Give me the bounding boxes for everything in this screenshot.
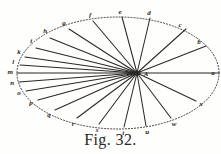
center-point-marker xyxy=(134,71,141,75)
radius-line-c xyxy=(137,29,186,73)
perimeter-label-q: q xyxy=(47,112,50,119)
perimeter-label-i: i xyxy=(30,38,32,45)
perimeter-label-c: c xyxy=(179,22,182,29)
perimeter-label-m: m xyxy=(7,69,12,76)
center-point-label: A xyxy=(144,71,149,78)
perimeter-label-n: n xyxy=(10,80,14,87)
figure-caption: Fig. 32. xyxy=(0,131,221,149)
perimeter-label-g: g xyxy=(62,20,65,27)
perimeter-label-k: k xyxy=(17,49,20,56)
perimeter-label-b: b xyxy=(197,39,200,46)
perimeter-label-o: o xyxy=(17,90,20,97)
perimeter-label-l: l xyxy=(12,59,14,66)
center-dot xyxy=(134,71,141,75)
perimeter-label-a: a xyxy=(211,70,214,77)
radius-line-u xyxy=(137,73,146,126)
perimeter-label-x: x xyxy=(199,101,202,108)
perimeter-label-f: f xyxy=(89,12,91,19)
perimeter-label-e: e xyxy=(119,9,122,16)
perimeter-label-p: p xyxy=(29,100,32,107)
radius-line-d xyxy=(137,18,150,73)
perimeter-label-d: d xyxy=(147,10,150,17)
perimeter-label-r: r xyxy=(72,121,75,128)
figure-container: abcdefghiklmnopqrstuwx A Fig. 32. xyxy=(0,0,221,154)
perimeter-label-w: w xyxy=(172,121,176,128)
radius-line-w xyxy=(137,73,171,118)
perimeter-label-h: h xyxy=(43,28,47,35)
